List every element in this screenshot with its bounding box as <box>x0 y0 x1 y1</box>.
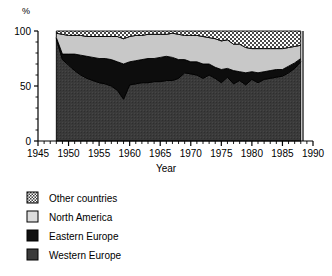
legend-swatch-solid-light-gray <box>27 211 38 222</box>
x-tick-label-1980: 1980 <box>241 148 264 159</box>
y-tick-label-100: 100 <box>14 26 31 37</box>
legend-swatch-solid-dark-gray <box>27 249 38 260</box>
x-tick-label-1990: 1990 <box>302 148 325 159</box>
x-tick-label-1985: 1985 <box>271 148 294 159</box>
legend-label: Eastern Europe <box>49 231 119 242</box>
legend-swatch-solid-black <box>27 230 38 241</box>
area-series-group <box>56 31 300 141</box>
legend-label: Other countries <box>49 193 117 204</box>
y-axis-unit-label: % <box>22 6 30 16</box>
legend-label: Western Europe <box>49 250 122 261</box>
x-tick-label-1945: 1945 <box>27 148 50 159</box>
x-axis-title: Year <box>156 163 177 174</box>
x-tick-label-1970: 1970 <box>180 148 203 159</box>
legend-label: North America <box>49 212 113 223</box>
x-tick-label-1960: 1960 <box>119 148 142 159</box>
x-tick-label-1965: 1965 <box>149 148 172 159</box>
y-tick-label-50: 50 <box>20 81 32 92</box>
y-tick-label-0: 0 <box>25 136 31 147</box>
x-tick-label-1950: 1950 <box>57 148 80 159</box>
x-tick-label-1975: 1975 <box>210 148 233 159</box>
x-tick-label-1955: 1955 <box>88 148 111 159</box>
legend-swatch-checkered <box>27 192 38 203</box>
chart-canvas: % 050100 1945195019551960196519701975198… <box>0 0 332 276</box>
stacked-area-chart: % 050100 1945195019551960196519701975198… <box>0 0 332 276</box>
